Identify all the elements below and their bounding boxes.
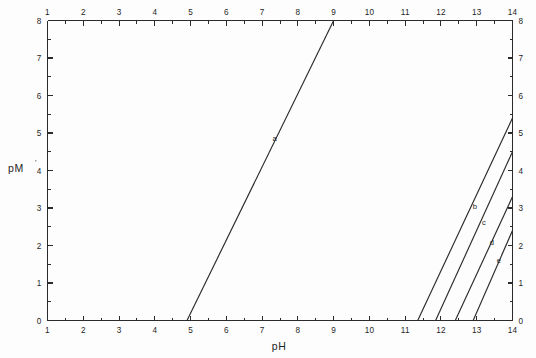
x-tick-label-bottom: 8 — [296, 326, 301, 335]
x-axis-title: pH — [272, 340, 287, 352]
x-tick-label-top: 3 — [117, 8, 122, 17]
series-label-e: e — [497, 256, 501, 265]
y-tick-label-right: 1 — [519, 279, 524, 288]
x-tick-label-top: 2 — [81, 8, 86, 17]
x-tick-label-bottom: 4 — [152, 326, 157, 335]
series-label-c: c — [482, 218, 486, 227]
y-tick-label-left: 3 — [37, 204, 42, 213]
chart-figure: 1122334455667788991010111112121313141400… — [0, 0, 536, 358]
x-tick-label-top: 7 — [260, 8, 265, 17]
y-tick-label-left: 6 — [37, 92, 42, 101]
y-tick-label-left: 7 — [37, 54, 42, 63]
x-tick-label-bottom: 6 — [224, 326, 229, 335]
y-axis-title: pM — [8, 162, 24, 174]
x-tick-label-top: 11 — [401, 8, 410, 17]
x-tick-label-bottom: 9 — [331, 326, 336, 335]
x-tick-label-bottom: 2 — [81, 326, 86, 335]
y-tick-label-left: 0 — [37, 317, 42, 326]
chart-background — [0, 0, 536, 358]
y-tick-label-right: 5 — [519, 129, 524, 138]
x-tick-label-top: 10 — [365, 8, 375, 17]
y-tick-label-left: 4 — [37, 167, 42, 176]
x-tick-label-top: 14 — [508, 8, 518, 17]
x-tick-label-top: 8 — [296, 8, 301, 17]
y-tick-label-right: 6 — [519, 92, 524, 101]
x-tick-label-bottom: 3 — [117, 326, 122, 335]
x-tick-label-bottom: 7 — [260, 326, 265, 335]
y-tick-label-right: 4 — [519, 167, 524, 176]
x-tick-label-top: 13 — [472, 8, 482, 17]
x-tick-label-top: 1 — [45, 8, 50, 17]
x-tick-label-top: 9 — [331, 8, 336, 17]
x-tick-label-bottom: 1 — [45, 326, 50, 335]
x-tick-label-bottom: 13 — [472, 326, 482, 335]
y-tick-label-right: 8 — [519, 17, 524, 26]
y-tick-label-right: 3 — [519, 204, 524, 213]
y-tick-label-right: 0 — [519, 317, 524, 326]
x-tick-label-top: 4 — [152, 8, 157, 17]
x-tick-label-top: 5 — [188, 8, 193, 17]
series-label-d: d — [490, 238, 494, 247]
y-tick-label-left: 1 — [37, 279, 42, 288]
y-tick-label-right: 2 — [519, 242, 524, 251]
x-tick-label-top: 6 — [224, 8, 229, 17]
x-tick-label-bottom: 11 — [401, 326, 410, 335]
x-tick-label-bottom: 5 — [188, 326, 193, 335]
y-tick-label-left: 2 — [37, 242, 42, 251]
y-tick-label-left: 8 — [37, 17, 42, 26]
y-tick-label-right: 7 — [519, 54, 524, 63]
x-tick-label-bottom: 12 — [436, 326, 446, 335]
x-tick-label-top: 12 — [436, 8, 446, 17]
x-tick-label-bottom: 14 — [508, 326, 518, 335]
y-tick-label-left: 5 — [37, 129, 42, 138]
series-label-b: b — [473, 202, 477, 211]
chart-svg: 1122334455667788991010111112121313141400… — [0, 0, 536, 358]
x-tick-label-bottom: 10 — [365, 326, 375, 335]
